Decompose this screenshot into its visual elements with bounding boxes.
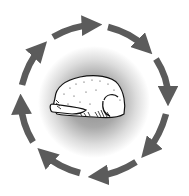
arrow-icon [98,162,136,176]
arrow-icon [45,155,80,173]
arrow-icon [156,59,168,96]
arrow-icon [22,49,40,85]
arrow-icon [148,114,166,150]
arrow-icon [108,27,145,47]
cycle-svg [0,0,189,196]
arrow-icon [21,104,33,142]
cycle-illustration [0,0,189,196]
arrow-icon [53,25,92,37]
